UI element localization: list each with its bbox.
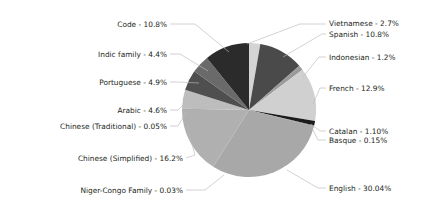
label-chinese-simplified: Chinese (Simplified) - 16.2% xyxy=(78,154,183,163)
label-spanish: Spanish - 10.8% xyxy=(329,30,389,39)
label-code: Code - 10.8% xyxy=(117,20,167,29)
label-basque: Basque - 0.15% xyxy=(329,136,387,145)
label-english: English - 30.04% xyxy=(329,184,391,193)
leader-line-niger-congo xyxy=(186,175,224,190)
label-arabic: Arabic - 4.6% xyxy=(117,106,167,115)
leader-line-indonesian xyxy=(303,57,326,77)
pie-slices xyxy=(182,43,316,177)
label-catalan: Catalan - 1.10% xyxy=(329,127,388,136)
label-indic-family: Indic family - 4.4% xyxy=(98,50,167,59)
label-portuguese: Portuguese - 4.9% xyxy=(99,78,167,87)
pie-chart-page: Vietnamese - 2.7% Spanish - 10.8% Indone… xyxy=(0,0,441,220)
label-chinese-traditional: Chinese (Traditional) - 0.05% xyxy=(60,122,167,131)
leader-line-vietnamese xyxy=(247,24,326,44)
label-french: French - 12.9% xyxy=(329,84,384,93)
language-distribution-pie-chart: Vietnamese - 2.7% Spanish - 10.8% Indone… xyxy=(0,0,441,220)
leader-line-spanish xyxy=(283,34,326,57)
leader-line-code xyxy=(170,24,229,52)
leader-line-english xyxy=(287,170,326,188)
label-niger-congo-family: Niger-Congo Family - 0.03% xyxy=(80,186,183,195)
label-indonesian: Indonesian - 1.2% xyxy=(329,53,396,62)
label-vietnamese: Vietnamese - 2.7% xyxy=(329,19,399,28)
